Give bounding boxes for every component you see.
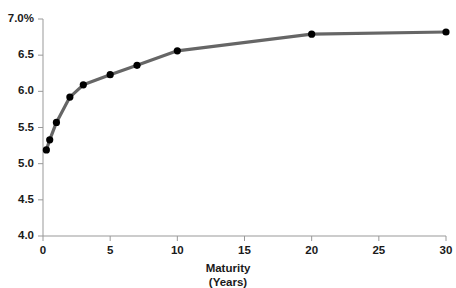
data-point-marker [133, 62, 140, 69]
plot-area [0, 0, 456, 288]
x-axis-tick-label: 10 [171, 245, 184, 257]
y-axis-tick-label: 4.5 [0, 194, 34, 206]
x-axis-title-units: (Years) [0, 275, 456, 288]
x-axis-tick-label: 20 [305, 245, 318, 257]
x-axis-tick-label: 25 [372, 245, 385, 257]
data-point-marker [80, 81, 87, 88]
x-axis-ticks [43, 236, 446, 241]
x-axis-tick-label: 5 [107, 245, 113, 257]
data-point-marker [46, 136, 53, 143]
data-point-marker [66, 94, 73, 101]
data-point-marker [107, 71, 114, 78]
y-axis-tick-label: 6.5 [0, 49, 34, 61]
y-axis-tick-label: 5.5 [0, 122, 34, 134]
x-axis-title-main: Maturity [0, 261, 456, 275]
data-point-marker [43, 146, 50, 153]
x-axis-tick-label: 30 [440, 245, 453, 257]
data-point-marker [53, 119, 60, 126]
x-axis-tick-label: 15 [238, 245, 251, 257]
yield-curve-chart: 4.04.55.05.56.06.57.0% 051015202530 Matu… [0, 0, 456, 288]
y-axis-tick-label: 4.0 [0, 230, 34, 242]
y-axis-tick-label: 6.0 [0, 86, 34, 98]
axis-lines [38, 19, 446, 241]
y-axis-tick-label: 7.0% [0, 13, 34, 25]
data-point-marker [308, 31, 315, 38]
series-line [46, 32, 446, 150]
data-point-marker [442, 28, 449, 35]
series-markers [43, 28, 450, 153]
y-axis-ticks [38, 19, 43, 236]
y-axis-tick-label: 5.0 [0, 158, 34, 170]
data-series-group [43, 28, 450, 153]
x-axis-tick-label: 0 [40, 245, 46, 257]
data-point-marker [174, 47, 181, 54]
x-axis-title: Maturity (Years) [0, 261, 456, 288]
